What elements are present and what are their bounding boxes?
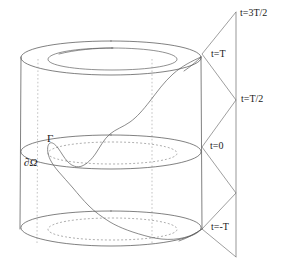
interface-curve-group xyxy=(48,57,202,241)
bottom-cap-outer-ellipse xyxy=(21,211,201,246)
label-gamma: Γ xyxy=(47,133,53,144)
label-t-0: t=0 xyxy=(210,141,223,151)
hidden-generators xyxy=(37,59,152,243)
label-boundary-omega: ∂Ω xyxy=(24,157,37,168)
label-t-minus-T: t=-T xyxy=(211,222,229,232)
mid-section-inner-dashed-ellipse xyxy=(48,142,177,164)
top-cap-inner-ellipse xyxy=(48,48,177,70)
figure-canvas xyxy=(0,0,298,269)
label-t-T: t=T xyxy=(211,49,226,59)
cylinder-left-edge xyxy=(20,57,21,229)
label-t-T-over-2: t=T/2 xyxy=(241,94,263,104)
bottom-cap-inner-dashed-ellipse xyxy=(48,218,177,240)
bottom-cap-group xyxy=(21,211,201,246)
label-t-3T-over-2: t=3T/2 xyxy=(240,8,267,18)
interface-curve-bottom-tangent xyxy=(179,229,202,241)
hidden-generator-left xyxy=(37,59,38,243)
space-time-cylinder-figure: t=3T/2 t=T t=T/2 t=0 t=-T Γ ∂Ω xyxy=(0,0,298,269)
cylinder-right-edge xyxy=(201,57,202,229)
top-cap-group xyxy=(21,41,201,75)
interface-wavy-curve xyxy=(48,57,202,239)
